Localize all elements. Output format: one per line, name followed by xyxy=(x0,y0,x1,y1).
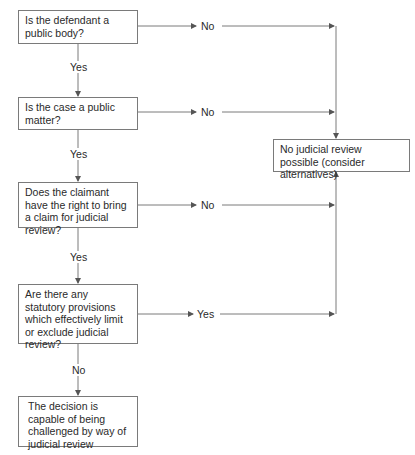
node-text: Is the case a public matter? xyxy=(25,101,115,126)
edge-label-q4-yes: Yes xyxy=(195,308,216,320)
node-judicial-review-possible: The decision is capable of being challen… xyxy=(18,396,138,447)
edge-label-q4-no: No xyxy=(70,364,87,376)
edge-label-q1-no: No xyxy=(199,20,216,32)
node-claimant-right-question: Does the claimant have the right to brin… xyxy=(18,182,138,228)
node-statutory-provisions-question: Are there any statutory provisions which… xyxy=(18,284,138,344)
edge-label-q3-yes: Yes xyxy=(68,251,89,263)
node-text: Are there any statutory provisions which… xyxy=(25,288,123,350)
node-no-judicial-review: No judicial review possible (consider al… xyxy=(273,139,410,172)
edge-label-q3-no: No xyxy=(199,199,216,211)
edge-label-q2-no: No xyxy=(199,106,216,118)
edge-label-q1-yes: Yes xyxy=(68,61,89,73)
node-public-body-question: Is the defendant a public body? xyxy=(18,10,138,44)
node-text: Is the defendant a public body? xyxy=(25,14,109,39)
node-public-matter-question: Is the case a public matter? xyxy=(18,97,138,130)
node-text: The decision is capable of being challen… xyxy=(28,400,126,450)
edge-label-q2-yes: Yes xyxy=(68,148,89,160)
